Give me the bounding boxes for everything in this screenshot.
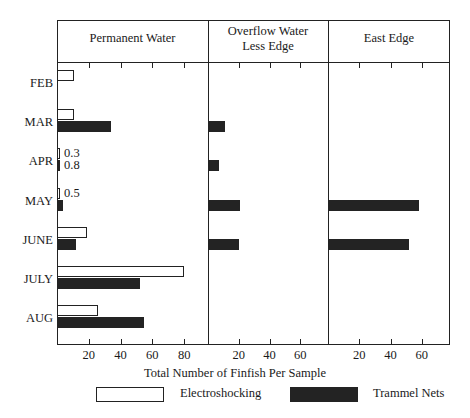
category-label-aug: AUG (0, 311, 53, 326)
x-tick-label: 60 (137, 348, 167, 363)
bar-aug-electroshocking (57, 305, 98, 316)
bar-mar-trammel-nets (208, 121, 225, 132)
x-tick-label: 40 (106, 348, 136, 363)
tick-mark (239, 62, 240, 68)
legend-swatch-electroshocking (96, 387, 164, 402)
tick-mark (89, 62, 90, 68)
tick-mark (121, 339, 122, 345)
x-tick-label: 40 (376, 348, 406, 363)
tick-mark (300, 339, 301, 345)
tick-mark (121, 62, 122, 68)
x-tick-label: 20 (344, 348, 374, 363)
bar-aug-trammel-nets (57, 317, 144, 328)
tick-mark (152, 62, 153, 68)
bar-mar-electroshocking (57, 109, 74, 120)
panel-title-2: Overflow WaterLess Edge (208, 24, 328, 54)
bar-feb-electroshocking (57, 70, 74, 81)
panel-divider-2 (328, 20, 329, 345)
legend-swatch-trammel-nets (290, 387, 358, 402)
tick-mark (422, 339, 423, 345)
tick-mark (152, 339, 153, 345)
tick-mark (184, 62, 185, 68)
value-label: 0.5 (64, 186, 80, 201)
bar-july-trammel-nets (57, 278, 140, 289)
panel-title-1: Permanent Water (57, 31, 208, 46)
panel-divider-1 (208, 20, 209, 345)
panel-title-line: Permanent Water (57, 31, 208, 46)
x-tick-label: 20 (74, 348, 104, 363)
panel-title-line: Less Edge (208, 39, 328, 54)
bar-apr-trammel-nets (57, 160, 60, 171)
tick-mark (359, 339, 360, 345)
category-label-mar: MAR (0, 115, 53, 130)
category-label-apr: APR (0, 154, 53, 169)
x-tick-label: 40 (255, 348, 285, 363)
tick-mark (239, 339, 240, 345)
bar-may-electroshocking (57, 188, 60, 199)
chart-legend: Electroshocking Trammel Nets (0, 384, 470, 406)
tick-mark (270, 339, 271, 345)
tick-mark (300, 62, 301, 68)
panel-title-line: East Edge (328, 31, 450, 46)
category-label-july: JULY (0, 272, 53, 287)
bar-june-trammel-nets (57, 239, 76, 250)
legend-label-trammel-nets: Trammel Nets (373, 386, 444, 401)
tick-mark (184, 339, 185, 345)
panel-title-3: East Edge (328, 31, 450, 46)
bar-mar-trammel-nets (57, 121, 111, 132)
tick-mark (391, 339, 392, 345)
x-tick-label: 80 (169, 348, 199, 363)
bar-apr-trammel-nets (208, 160, 219, 171)
x-tick-label: 60 (407, 348, 437, 363)
tick-mark (359, 62, 360, 68)
bar-june-trammel-nets (208, 239, 239, 250)
x-axis-label: Total Number of Finfish Per Sample (0, 366, 470, 381)
bar-july-electroshocking (57, 266, 184, 277)
bar-may-trammel-nets (328, 200, 419, 211)
x-tick-label: 60 (285, 348, 315, 363)
tick-mark (391, 62, 392, 68)
tick-mark (422, 62, 423, 68)
value-label: 0.8 (64, 158, 80, 173)
category-label-feb: FEB (0, 76, 53, 91)
bar-may-trammel-nets (57, 200, 63, 211)
bar-june-electroshocking (57, 227, 87, 238)
bar-apr-electroshocking (57, 148, 60, 159)
category-label-may: MAY (0, 194, 53, 209)
chart-figure: Permanent WaterOverflow WaterLess EdgeEa… (0, 0, 470, 418)
legend-label-electroshocking: Electroshocking (180, 386, 261, 401)
panel-title-line: Overflow Water (208, 24, 328, 39)
bar-june-trammel-nets (328, 239, 409, 250)
tick-mark (270, 62, 271, 68)
plot-frame (57, 20, 450, 345)
x-tick-label: 20 (224, 348, 254, 363)
tick-mark (89, 339, 90, 345)
bar-may-trammel-nets (208, 200, 240, 211)
category-label-june: JUNE (0, 233, 53, 248)
